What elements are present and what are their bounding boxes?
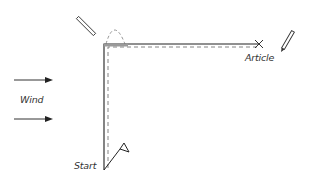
route-diagram (0, 0, 309, 185)
wind-arrow-top-icon (14, 77, 53, 83)
dashed-route (108, 47, 258, 168)
article-label: Article (245, 52, 274, 63)
pencil-icon-right (280, 31, 295, 53)
wind-label: Wind (20, 94, 43, 105)
thick-segment (104, 44, 128, 47)
dashed-arc (106, 30, 125, 44)
start-label: Start (74, 160, 96, 171)
wind-arrow-bottom-icon (14, 116, 53, 122)
pencil-icon-left (76, 16, 95, 35)
